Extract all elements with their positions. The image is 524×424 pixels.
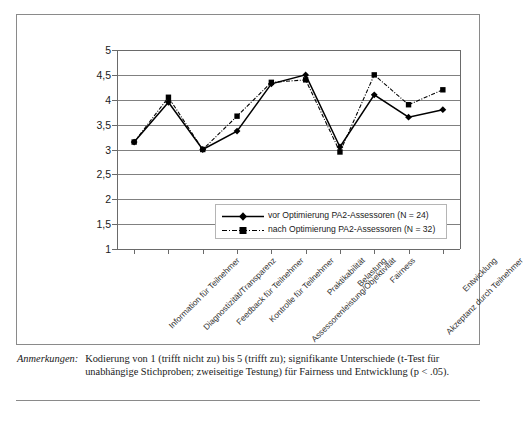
x-tick-mark [203, 249, 204, 254]
note-body: Kodierung von 1 (trifft nicht zu) bis 5 … [85, 352, 479, 378]
x-tick-mark [443, 249, 444, 254]
legend-key-diamond-icon [221, 209, 265, 222]
data-point-square [200, 147, 205, 152]
data-point-square [406, 102, 411, 107]
legend-label-vor: vor Optimierung PA2-Assessoren (N = 24) [265, 210, 429, 220]
series-line [134, 75, 443, 152]
x-tick-mark [271, 249, 272, 254]
data-point-square [440, 87, 445, 92]
y-tick-label: 5 [81, 45, 111, 56]
legend-item-nach: nach Optimierung PA2-Assessoren (N = 32) [221, 222, 441, 236]
series-line [134, 75, 443, 150]
data-point-square [269, 80, 274, 85]
legend-label-nach: nach Optimierung PA2-Assessoren (N = 32) [265, 224, 435, 234]
data-point-square [234, 113, 239, 118]
data-point-square [131, 139, 136, 144]
legend-item-vor: vor Optimierung PA2-Assessoren (N = 24) [221, 208, 441, 222]
figure-note: Anmerkungen: Kodierung von 1 (trifft nic… [17, 352, 479, 378]
y-axis-labels: 54,543,532,521,51 [79, 50, 111, 249]
y-tick-label: 1 [81, 244, 111, 255]
x-tick-mark [134, 249, 135, 254]
data-point-square [337, 149, 342, 154]
chart-legend: vor Optimierung PA2-Assessoren (N = 24) … [215, 204, 447, 239]
x-tick-mark [409, 249, 410, 254]
y-tick-label: 1,5 [81, 219, 111, 230]
note-label: Anmerkungen: [17, 352, 85, 378]
y-tick-label: 4,5 [81, 70, 111, 81]
legend-key-square-icon [221, 223, 265, 236]
plot-right-border [460, 50, 461, 249]
y-tick-label: 2,5 [81, 169, 111, 180]
x-tick-mark [168, 249, 169, 254]
x-tick-mark [306, 249, 307, 254]
chart-frame: 54,543,532,521,51 Information für Teilne… [16, 14, 480, 345]
data-point-square [166, 95, 171, 100]
x-tick-mark [237, 249, 238, 254]
data-point-square [303, 77, 308, 82]
y-tick-label: 3 [81, 145, 111, 156]
x-tick-mark [374, 249, 375, 254]
note-bottom-rule [16, 400, 480, 401]
y-tick-label: 2 [81, 194, 111, 205]
y-tick-mark [112, 249, 117, 250]
x-tick-mark [340, 249, 341, 254]
y-tick-label: 3,5 [81, 120, 111, 131]
y-tick-label: 4 [81, 95, 111, 106]
data-point-diamond [439, 106, 446, 113]
data-point-square [372, 72, 377, 77]
x-category-label: Information für Teilnehmer [167, 256, 241, 330]
